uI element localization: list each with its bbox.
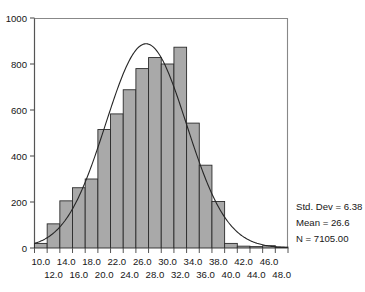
x-tick-label-bottom: 28.0 (146, 269, 165, 280)
x-tick-label-top: 22.0 (108, 256, 127, 267)
mean-label: Mean = 26.6 (296, 217, 350, 228)
y-tick-label: 800 (11, 59, 27, 70)
x-tick-label-top: 38.0 (209, 256, 228, 267)
x-tick-label-bottom: 36.0 (196, 269, 215, 280)
y-tick-label: 400 (11, 151, 27, 162)
x-tick-label-bottom: 48.0 (272, 269, 291, 280)
y-tick-label: 1000 (6, 13, 27, 24)
histogram-bar (250, 247, 263, 248)
histogram-bar (85, 179, 98, 248)
y-tick-label: 0 (22, 243, 27, 254)
x-tick-label-bottom: 20.0 (95, 269, 114, 280)
x-tick-label-top: 14.0 (57, 256, 76, 267)
x-axis-ticks (35, 248, 289, 253)
y-tick-label: 200 (11, 197, 27, 208)
histogram-bar (212, 202, 225, 248)
x-tick-label-top: 26.0 (133, 256, 152, 267)
histogram-bar (111, 114, 124, 248)
x-tick-label-top: 10.0 (31, 256, 50, 267)
x-tick-label-bottom: 32.0 (171, 269, 190, 280)
histogram-bar (149, 58, 162, 248)
x-tick-label-bottom: 16.0 (70, 269, 89, 280)
y-tick-label: 600 (11, 105, 27, 116)
x-tick-label-bottom: 44.0 (247, 269, 266, 280)
x-tick-label-top: 18.0 (82, 256, 101, 267)
x-tick-label-bottom: 40.0 (222, 269, 241, 280)
x-tick-label-top: 46.0 (260, 256, 279, 267)
histogram-bar (123, 90, 136, 248)
histogram-bar (237, 246, 250, 248)
std-dev-label: Std. Dev = 6.38 (296, 201, 362, 212)
x-tick-label-top: 34.0 (184, 256, 203, 267)
x-tick-label-bottom: 24.0 (120, 269, 139, 280)
histogram-bar (136, 69, 149, 248)
histogram-bar (225, 243, 238, 248)
x-tick-label-top: 30.0 (158, 256, 177, 267)
x-tick-label-top: 42.0 (234, 256, 253, 267)
histogram-bar (187, 123, 200, 248)
n-label: N = 7105.00 (296, 233, 349, 244)
histogram-bar (35, 243, 48, 248)
histogram-figure: 0 200 400 600 800 1000 10.014.018.022.02… (0, 0, 365, 292)
histogram-bar (174, 47, 187, 248)
x-tick-label-bottom: 12.0 (44, 269, 63, 280)
histogram-bar (161, 64, 174, 248)
histogram-bar (98, 130, 111, 248)
